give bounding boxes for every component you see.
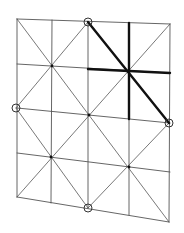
node-3-1-dot <box>128 70 131 73</box>
skewed-grid-diagram <box>0 0 184 233</box>
diagram-canvas <box>0 0 184 233</box>
highlighted-path <box>88 22 170 123</box>
node-1-3-dot <box>50 156 53 159</box>
col-1-line <box>51 20 52 203</box>
diag-bottom-left-line <box>16 108 88 208</box>
diag-bottom-right-line <box>88 123 169 208</box>
node-2-2-dot <box>88 114 91 117</box>
node-3-3-dot <box>128 166 131 169</box>
row-4-line <box>17 197 169 222</box>
row-3-line <box>17 153 170 172</box>
row-0-line <box>17 19 170 24</box>
node-1-1-dot <box>51 65 54 68</box>
